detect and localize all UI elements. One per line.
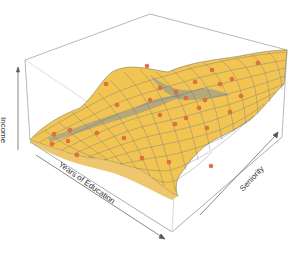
income-axis-arrow xyxy=(17,67,20,150)
z-axis-label: Income xyxy=(0,117,8,143)
surface-plot xyxy=(0,0,296,253)
seniority-axis-arrow xyxy=(200,132,278,215)
